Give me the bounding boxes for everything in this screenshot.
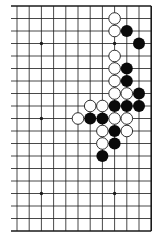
white-stone bbox=[97, 100, 109, 112]
black-stone bbox=[133, 100, 145, 112]
white-stone bbox=[109, 113, 121, 125]
white-stone bbox=[121, 125, 133, 137]
black-stone bbox=[121, 63, 133, 75]
star-point-icon bbox=[40, 192, 43, 195]
white-stone bbox=[109, 13, 121, 25]
white-stone bbox=[109, 50, 121, 62]
white-stone bbox=[109, 75, 121, 87]
black-stone bbox=[109, 125, 121, 137]
white-stone bbox=[121, 88, 133, 100]
white-stone bbox=[84, 100, 96, 112]
black-stone bbox=[109, 100, 121, 112]
white-stone bbox=[109, 88, 121, 100]
star-point-icon bbox=[113, 42, 116, 45]
black-stone bbox=[96, 113, 108, 125]
star-point-icon bbox=[113, 192, 116, 195]
black-stone bbox=[133, 88, 145, 100]
white-stone bbox=[121, 113, 133, 125]
black-stone bbox=[96, 150, 108, 162]
black-stone bbox=[121, 75, 133, 87]
black-stone bbox=[133, 38, 145, 50]
go-board bbox=[0, 0, 163, 237]
black-stone bbox=[121, 100, 133, 112]
white-stone bbox=[97, 125, 109, 137]
black-stone bbox=[109, 138, 121, 150]
star-point-icon bbox=[40, 117, 43, 120]
stones bbox=[72, 13, 145, 162]
black-stone bbox=[121, 25, 133, 37]
white-stone bbox=[109, 25, 121, 37]
go-board-diagram bbox=[0, 0, 163, 237]
black-stone bbox=[84, 113, 96, 125]
white-stone bbox=[109, 63, 121, 75]
white-stone bbox=[72, 113, 84, 125]
star-point-icon bbox=[40, 42, 43, 45]
white-stone bbox=[97, 138, 109, 150]
